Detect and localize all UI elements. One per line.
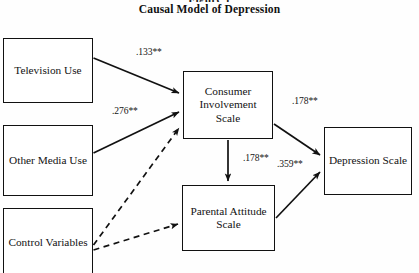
node-other-media-use[interactable]: Other Media Use [3, 125, 93, 196]
edge-tv-to-consumer [94, 58, 180, 93]
node-television-use[interactable]: Television Use [3, 38, 93, 103]
edge-control-to-parental [94, 224, 179, 250]
edge-control-to-consumer [94, 128, 180, 245]
node-parental-attitude-scale[interactable]: Parental Attitude Scale [182, 185, 275, 251]
figure-canvas: Figure 1 Causal Model of Depression [0, 0, 419, 273]
coefficient-tv-to-consumer: .133** [136, 46, 162, 57]
edge-parental-to-depression [276, 172, 320, 218]
figure-title: Causal Model of Depression [0, 3, 419, 15]
node-consumer-involvement-scale[interactable]: Consumer Involvement Scale [183, 71, 273, 139]
node-depression-scale-label: Depression Scale [327, 154, 409, 167]
node-other-media-use-label: Other Media Use [7, 154, 89, 167]
coefficient-consumer-to-parental: .178** [243, 152, 269, 163]
node-consumer-involvement-scale-label: Consumer Involvement Scale [184, 85, 272, 125]
figure-number-label: Figure 1 [0, 0, 419, 2]
node-control-variables-label: Control Variables [6, 236, 89, 249]
coefficient-consumer-to-depression: .178** [292, 95, 318, 106]
node-depression-scale[interactable]: Depression Scale [324, 127, 412, 195]
edge-othermedia-to-consumer [94, 112, 180, 153]
coefficient-parental-to-depression: .359** [277, 158, 303, 169]
node-control-variables[interactable]: Control Variables [3, 208, 93, 273]
node-parental-attitude-scale-label: Parental Attitude Scale [183, 205, 274, 232]
coefficient-othermedia-to-consumer: .276** [112, 105, 138, 116]
node-television-use-label: Television Use [12, 64, 83, 77]
edge-consumer-to-depression [274, 124, 320, 155]
